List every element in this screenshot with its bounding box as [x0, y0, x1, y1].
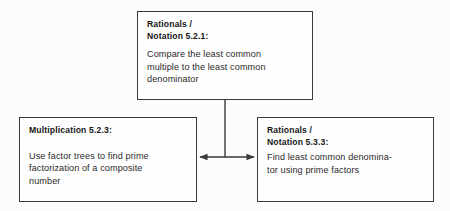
node-body: Compare the least common multiple to the… — [147, 48, 303, 86]
node-title: Rationals / Notation 5.2.1: — [147, 19, 303, 42]
diagram-canvas: Rationals / Notation 5.2.1: Compare the … — [0, 0, 450, 211]
node-title: Multiplication 5.2.3: — [29, 125, 187, 137]
node-title: Rationals / Notation 5.3.3: — [267, 125, 424, 148]
node-body: Find least common denomina- tor using pr… — [267, 151, 424, 176]
node-multiplication-5-2-3[interactable]: Multiplication 5.2.3: Use factor trees t… — [19, 117, 197, 202]
node-body: Use factor trees to find prime factoriza… — [29, 150, 187, 188]
node-rationals-notation-5-2-1[interactable]: Rationals / Notation 5.2.1: Compare the … — [137, 11, 313, 100]
node-rationals-notation-5-3-3[interactable]: Rationals / Notation 5.3.3: Find least c… — [257, 117, 434, 202]
